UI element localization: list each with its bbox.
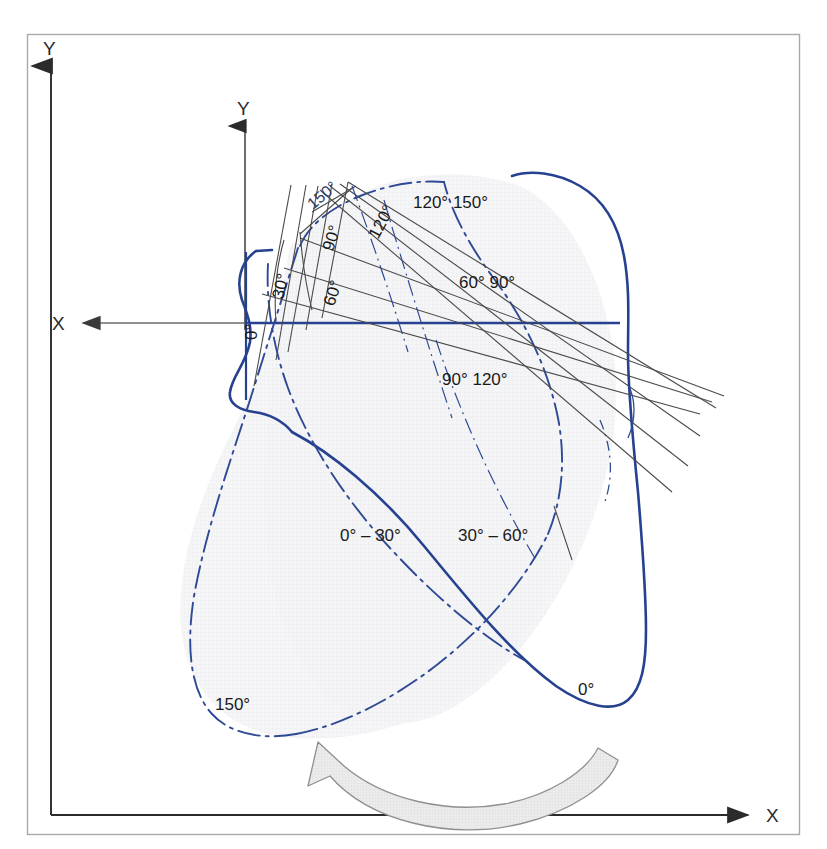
solid-outline-top-cap — [256, 250, 272, 251]
label-30-60: 30° – 60° — [458, 526, 528, 545]
label-0-bottom: 0° — [578, 680, 594, 699]
label-150-rotated: 150° — [304, 178, 340, 212]
label-90-120: 90° 120° — [442, 370, 508, 389]
outer-y-axis-label: Y — [43, 38, 56, 59]
label-0-origin: 0° — [242, 324, 261, 340]
label-60-90: 60° 90° — [459, 273, 515, 292]
inner-x-axis-label: X — [52, 313, 65, 334]
label-0-30: 0° – 30° — [340, 526, 401, 545]
rotation-arrow-body — [308, 742, 618, 830]
rotation-arrow — [308, 742, 618, 830]
diagram-stage: Y X Y X — [0, 0, 827, 849]
label-150-bottom: 150° — [215, 695, 250, 714]
inner-axis-system — [83, 126, 245, 330]
label-120-150: 120° 150° — [413, 193, 488, 212]
outer-x-axis-label: X — [766, 805, 779, 826]
inner-y-axis-label: Y — [237, 98, 250, 119]
